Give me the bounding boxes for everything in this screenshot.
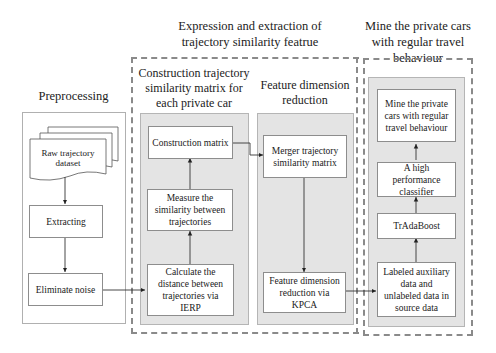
- eliminate-noise-box: Eliminate noise: [28, 273, 103, 306]
- kpca-box: Feature dimension reduction via KPCA: [263, 272, 346, 313]
- tradaboost-box: TrAdaBoost: [377, 213, 456, 239]
- classifier-box: A high performance classifier: [377, 162, 456, 197]
- mine-result-box: Mine the private cars with regular trave…: [377, 89, 456, 142]
- raw-dataset-label: Raw trajectory dataset: [31, 148, 105, 168]
- construction-matrix-box: Construction matrix: [148, 126, 233, 159]
- extracting-box: Extracting: [29, 205, 103, 238]
- calculate-distance-box: Calculate the distance between trajector…: [147, 264, 234, 316]
- merger-matrix-box: Merger trajectory similarity matrix: [263, 135, 347, 178]
- measure-similarity-box: Measure the similarity between trajector…: [147, 189, 233, 231]
- labeled-data-box: Labeled auxiliary data and unlabeled dat…: [377, 262, 456, 317]
